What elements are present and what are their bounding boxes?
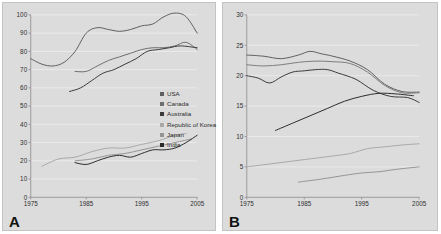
y-tick-label: 50 <box>20 102 28 109</box>
x-axis-ticks: 1975198519952005 <box>240 197 427 207</box>
panel-letter-b: B <box>229 214 240 229</box>
y-tick-label: 30 <box>20 139 28 146</box>
legend-item[interactable]: Australia <box>160 109 216 119</box>
legend-item[interactable]: Japan <box>160 130 216 140</box>
y-axis-ticks: 051015202530 <box>236 11 247 200</box>
legend-item[interactable]: Canada <box>160 99 216 109</box>
y-tick-label: 40 <box>20 121 28 128</box>
legend-item-label: Canada <box>167 101 189 107</box>
legend-swatch-icon <box>160 92 164 96</box>
y-tick-label: 15 <box>236 102 244 109</box>
chart-panel-a: 01020304050607080901001975198519952005 U… <box>2 2 216 231</box>
x-tick-label: 2005 <box>190 200 205 207</box>
panel-letter-a: A <box>9 214 20 229</box>
legend-item[interactable]: USA <box>160 89 216 99</box>
x-axis-ticks: 1975198519952005 <box>24 197 205 207</box>
y-tick-label: 90 <box>20 29 28 36</box>
legend-swatch-icon <box>160 143 164 147</box>
series-group <box>247 51 419 182</box>
series-line <box>276 93 414 130</box>
x-tick-label: 1975 <box>240 200 255 207</box>
x-tick-label: 1995 <box>355 200 370 207</box>
series-line <box>75 42 197 72</box>
y-tick-label: 20 <box>20 157 28 164</box>
line-chart-b: 0510152025301975198519952005 <box>223 3 437 230</box>
legend-a: USACanadaAustraliaRepublic of KoreaJapan… <box>160 89 216 150</box>
x-tick-label: 1985 <box>79 200 94 207</box>
gridlines <box>247 15 419 167</box>
legend-swatch-icon <box>160 112 164 116</box>
legend-item-label: Australia <box>167 111 191 117</box>
chart-panel-b: 0510152025301975198519952005 USACanadaAu… <box>222 2 438 231</box>
x-tick-label: 1985 <box>297 200 312 207</box>
y-tick-label: 5 <box>240 163 244 170</box>
legend-swatch-icon <box>160 133 164 137</box>
x-tick-label: 1995 <box>135 200 150 207</box>
y-tick-label: 100 <box>17 11 28 18</box>
series-line <box>247 144 419 167</box>
legend-item[interactable]: Republic of Korea <box>160 120 216 130</box>
legend-item[interactable]: India <box>160 140 216 150</box>
x-tick-label: 2005 <box>412 200 427 207</box>
y-tick-label: 25 <box>236 42 244 49</box>
y-tick-label: 30 <box>236 11 244 18</box>
y-tick-label: 70 <box>20 66 28 73</box>
x-tick-label: 1975 <box>24 200 39 207</box>
y-axis-ticks: 0102030405060708090100 <box>17 11 31 200</box>
legend-swatch-icon <box>160 102 164 106</box>
y-tick-label: 80 <box>20 48 28 55</box>
legend-item-label: Japan <box>167 132 184 138</box>
series-line <box>247 51 419 92</box>
y-tick-label: 10 <box>20 175 28 182</box>
y-tick-label: 20 <box>236 72 244 79</box>
legend-item-label: USA <box>167 91 180 97</box>
series-line <box>247 69 419 102</box>
legend-item-label: India <box>167 142 180 148</box>
series-line <box>298 167 419 182</box>
legend-item-label: Republic of Korea <box>167 122 216 128</box>
figure-container: 01020304050607080901001975198519952005 U… <box>0 0 441 234</box>
y-tick-label: 60 <box>20 84 28 91</box>
legend-swatch-icon <box>160 123 164 127</box>
y-tick-label: 10 <box>236 133 244 140</box>
